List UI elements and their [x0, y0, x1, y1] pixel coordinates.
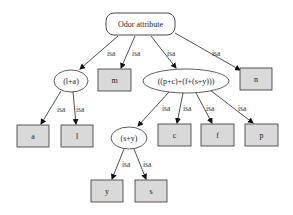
node-l[interactable]: l	[61, 125, 93, 147]
edges: isa isa isa isa isa isa isa isa isa isa …	[41, 33, 253, 179]
edge-label-sy-s: isa	[143, 160, 152, 169]
edge-label-root-la: isa	[107, 49, 116, 58]
node-label-p: p	[260, 131, 264, 140]
edge-label-root-m: isa	[132, 49, 141, 58]
node-label-y: y	[105, 187, 109, 196]
node-label-f: f	[216, 131, 219, 140]
node-s[interactable]: s	[135, 180, 167, 202]
node-m[interactable]: m	[98, 69, 131, 91]
node-label-odor-attribute: Odor attribute	[118, 20, 164, 29]
node-label-pcfsy: ((p+c)+(f+(s+y)))	[158, 77, 215, 86]
edge-label-la-l: isa	[76, 105, 85, 114]
edge-root-n	[175, 33, 240, 70]
node-label-n: n	[254, 75, 258, 84]
node-pcfsy[interactable]: ((p+c)+(f+(s+y)))	[143, 69, 229, 93]
node-f[interactable]: f	[201, 124, 234, 146]
node-label-s: s	[149, 187, 152, 196]
node-label-m: m	[111, 76, 118, 85]
edge-label-sy-y: isa	[122, 160, 131, 169]
edge-label-root-pcfsy: isa	[167, 49, 176, 58]
node-y[interactable]: y	[91, 180, 123, 202]
edge-label-pcfsy-p: isa	[238, 104, 247, 113]
edge-pcfsy-p	[210, 90, 253, 123]
node-a[interactable]: a	[17, 125, 49, 147]
node-l-plus-a[interactable]: (l+a)	[54, 70, 88, 92]
edge-label-pcfsy-sy: isa	[162, 104, 171, 113]
node-n[interactable]: n	[240, 68, 272, 90]
edge-label-la-a: isa	[57, 105, 66, 114]
edge-label-pcfsy-c: isa	[183, 104, 192, 113]
node-label-a: a	[31, 132, 35, 141]
node-label-l-plus-a: (l+a)	[63, 77, 79, 86]
node-label-c: c	[173, 131, 177, 140]
node-p[interactable]: p	[245, 124, 278, 146]
node-s-plus-y[interactable]: (s+y)	[111, 127, 147, 149]
node-odor-attribute[interactable]: Odor attribute	[106, 13, 175, 35]
edge-label-pcfsy-f: isa	[206, 104, 215, 113]
odor-attribute-taxonomy-diagram: isa isa isa isa isa isa isa isa isa isa …	[0, 0, 293, 215]
edge-label-root-n: isa	[212, 49, 221, 58]
node-c[interactable]: c	[158, 124, 191, 146]
node-label-s-plus-y: (s+y)	[121, 134, 138, 143]
